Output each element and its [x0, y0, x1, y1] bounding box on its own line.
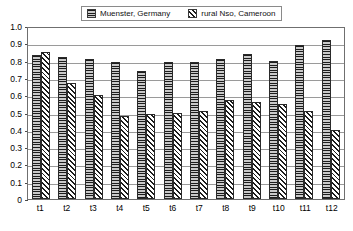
- y-axis-tick-label: 0.6: [10, 92, 22, 101]
- y-axis-tick-label: 0.5: [10, 109, 22, 118]
- bar-group: [265, 28, 291, 199]
- bar-group: [107, 28, 133, 199]
- y-axis-labels: 1.00.90.80.70.60.50.40.30.20.10: [0, 27, 25, 200]
- bar: [269, 61, 278, 199]
- bar: [67, 83, 76, 199]
- bar: [295, 45, 304, 199]
- bar: [225, 100, 234, 199]
- bar: [190, 62, 199, 199]
- y-axis-tick-label: 0.1: [10, 178, 22, 187]
- bar-group: [28, 28, 54, 199]
- y-axis-tick-label: 0.4: [10, 127, 22, 136]
- y-axis-tick-label: 0.3: [10, 144, 22, 153]
- legend-label-muenster: Muenster, Germany: [100, 9, 170, 18]
- bar: [304, 111, 313, 199]
- bar: [94, 95, 103, 199]
- bar: [199, 111, 208, 199]
- legend-swatch-diagonal-icon: [188, 9, 197, 18]
- plot-area: [27, 27, 345, 200]
- bar-chart: Muenster, Germany rural Nso, Cameroon 1.…: [0, 0, 353, 231]
- legend-entry-rural-nso: rural Nso, Cameroon: [188, 9, 275, 18]
- chart-legend: Muenster, Germany rural Nso, Cameroon: [81, 6, 282, 21]
- bar: [216, 59, 225, 199]
- bar: [32, 55, 41, 199]
- bar: [243, 54, 252, 199]
- bar-group: [160, 28, 186, 199]
- x-axis-tick-label: t12: [319, 203, 346, 213]
- x-axis-tick-label: t4: [107, 203, 134, 213]
- bar: [173, 113, 182, 200]
- bar-group: [212, 28, 238, 199]
- y-axis-tick-label: 0: [17, 196, 22, 205]
- bar: [41, 52, 50, 199]
- x-axis-tick-label: t2: [54, 203, 81, 213]
- bar: [252, 102, 261, 199]
- x-axis-tick-label: t6: [160, 203, 187, 213]
- bar: [146, 114, 155, 199]
- bar: [58, 57, 67, 199]
- bar-group: [133, 28, 159, 199]
- bar: [322, 40, 331, 199]
- bar: [120, 116, 129, 199]
- x-axis-tick-label: t9: [239, 203, 266, 213]
- bar-groups: [28, 28, 344, 199]
- bar-group: [54, 28, 80, 199]
- x-axis-tick-label: t7: [186, 203, 213, 213]
- bar: [85, 59, 94, 199]
- legend-entry-muenster: Muenster, Germany: [87, 9, 170, 18]
- bar-group: [186, 28, 212, 199]
- x-axis-tick-label: t10: [266, 203, 293, 213]
- bar-group: [318, 28, 344, 199]
- bar: [111, 62, 120, 199]
- bar: [137, 71, 146, 199]
- x-axis-tick-label: t1: [27, 203, 54, 213]
- bar: [164, 62, 173, 199]
- legend-swatch-hlines-icon: [87, 9, 96, 18]
- legend-label-rural-nso: rural Nso, Cameroon: [201, 9, 275, 18]
- bar-group: [291, 28, 317, 199]
- bar-group: [81, 28, 107, 199]
- bar: [331, 130, 340, 199]
- y-axis-tick: [25, 200, 28, 201]
- y-axis-tick-label: 0.2: [10, 161, 22, 170]
- x-axis-tick-label: t11: [292, 203, 319, 213]
- x-axis-tick-label: t8: [213, 203, 240, 213]
- x-axis-tick-label: t3: [80, 203, 107, 213]
- y-axis-tick-label: 0.8: [10, 57, 22, 66]
- bar-group: [239, 28, 265, 199]
- y-axis-tick-label: 0.9: [10, 40, 22, 49]
- bar: [278, 104, 287, 199]
- y-axis-tick-label: 1.0: [10, 23, 22, 32]
- x-axis-labels: t1t2t3t4t5t6t7t8t9t10t11t12: [27, 203, 345, 213]
- x-axis-tick-label: t5: [133, 203, 160, 213]
- y-axis-tick-label: 0.7: [10, 75, 22, 84]
